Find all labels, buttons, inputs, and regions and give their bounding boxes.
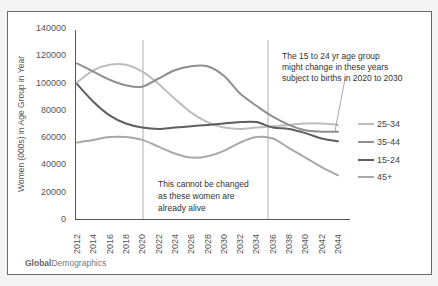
x-tick-label: 2024 — [170, 234, 180, 254]
y-tick-label: 80000 — [41, 105, 66, 115]
svg-text:might change in these years: might change in these years — [282, 62, 388, 72]
y-tick-label: 100000 — [36, 78, 66, 88]
y-tick-label: 40000 — [41, 159, 66, 169]
y-tick-label: 0 — [61, 214, 66, 224]
annotation-right: The 15 to 24 yr age group might change i… — [282, 51, 403, 83]
x-tick-label: 2028 — [203, 234, 213, 254]
svg-text:The 15 to 24 yr age group: The 15 to 24 yr age group — [282, 51, 380, 61]
y-axis-label: Women (000s) in Age Group in Year — [16, 56, 26, 192]
x-tick-label: 2018 — [121, 234, 131, 254]
y-tick-label: 60000 — [41, 132, 66, 142]
x-tick-label: 2016 — [105, 234, 115, 254]
x-tick-label: 2036 — [268, 234, 278, 254]
y-tick-label: 20000 — [41, 187, 66, 197]
x-tick-label: 2032 — [235, 234, 245, 254]
legend-label: 35-44 — [377, 137, 400, 147]
x-tick-label: 2014 — [88, 234, 98, 254]
svg-text:subject to births in 2020 to: subject to births in 2020 to 2030 — [282, 73, 403, 83]
svg-text:as these women are: as these women are — [158, 191, 235, 201]
series-line-15-24 — [77, 84, 338, 141]
x-tick-label: 2030 — [219, 234, 229, 254]
x-tick-label: 2022 — [154, 234, 164, 254]
x-tick-label: 2020 — [137, 234, 147, 254]
y-axis: 020000400006000080000100000120000140000 — [36, 23, 66, 224]
legend-label: 15-24 — [377, 155, 400, 165]
svg-text:already alive: already alive — [158, 203, 206, 213]
x-tick-label: 2040 — [300, 234, 310, 254]
x-tick-label: 2012 — [72, 234, 82, 254]
series-line-45plus — [77, 137, 338, 176]
annotation-pointer — [335, 79, 345, 131]
line-chart: 020000400006000080000100000120000140000 … — [0, 0, 438, 286]
x-tick-label: 2042 — [317, 234, 327, 254]
x-tick-label: 2044 — [333, 234, 343, 254]
legend-label: 25-34 — [377, 119, 400, 129]
legend: 25-3435-4415-2445+ — [358, 119, 400, 182]
x-tick-label: 2026 — [186, 234, 196, 254]
brand-logo: GlobalDemographics — [25, 258, 106, 268]
svg-text:This cannot be changed: This cannot be changed — [158, 179, 249, 189]
annotation-left: This cannot be changed as these women ar… — [158, 179, 249, 213]
y-tick-label: 140000 — [36, 23, 66, 33]
x-tick-label: 2034 — [251, 234, 261, 254]
y-tick-label: 120000 — [36, 50, 66, 60]
x-tick-label: 2038 — [284, 234, 294, 254]
legend-label: 45+ — [377, 172, 392, 182]
x-axis: 2012201420162018202020222024202620282030… — [72, 234, 343, 254]
